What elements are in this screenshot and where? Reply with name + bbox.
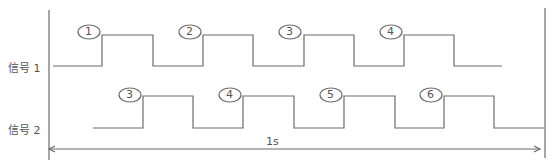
pulse-number: 4	[226, 88, 233, 101]
pulse-number: 5	[327, 88, 334, 101]
pulse-number: 3	[126, 88, 133, 101]
pulse-number: 6	[427, 88, 434, 101]
pulse-number: 2	[186, 25, 193, 38]
signal-2-waveform	[93, 96, 544, 128]
signal-1-label: 信号 1	[8, 59, 41, 75]
timing-diagram: 信号 1 信号 2 1 2 3 4 3 4 5 6 1s	[0, 0, 557, 167]
signal-1-waveform	[53, 35, 502, 66]
pulse-number: 1	[85, 25, 92, 38]
signal-2-label: 信号 2	[8, 121, 41, 137]
pulse-number: 3	[286, 25, 293, 38]
pulse-number: 4	[387, 25, 394, 38]
duration-label: 1s	[266, 135, 279, 148]
